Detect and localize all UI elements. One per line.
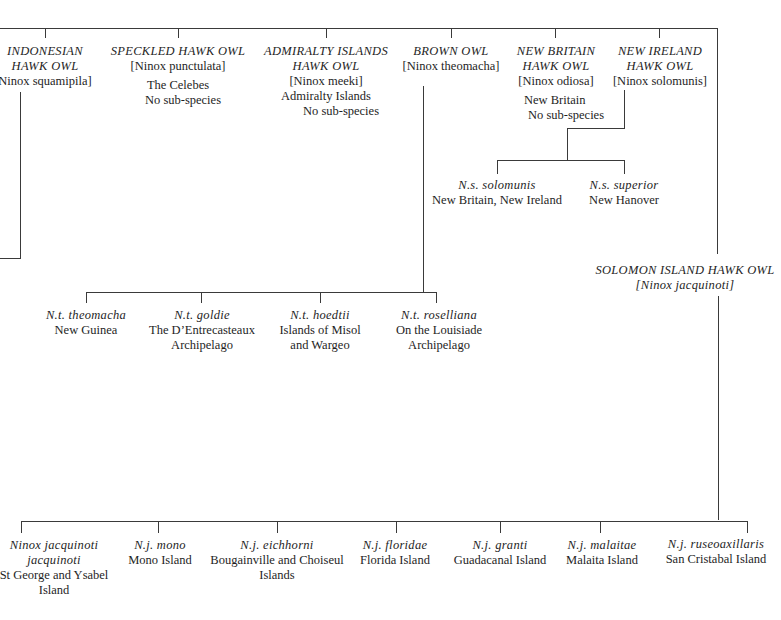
top-bracket-line [0, 28, 718, 29]
latin-name: [Ninox solomunis] [610, 74, 710, 89]
common-name: HAWK OWL [610, 59, 710, 74]
subspecies-name: N.j. granti [450, 538, 550, 553]
jacquinoti-bracket-line [21, 521, 748, 522]
range: Mono Island [120, 553, 200, 568]
common-name: HAWK OWL [256, 59, 396, 74]
tick-nt-roselliana [436, 292, 437, 303]
indonesian-stem-line [20, 92, 21, 258]
subspecies-name: N.j. floridae [350, 538, 440, 553]
indonesian-foot-line [0, 258, 21, 259]
range: New Guinea [36, 323, 136, 338]
tick-brown [451, 28, 452, 38]
range: St George and Ysabel [0, 568, 114, 583]
subspecies-nj-mono: N.j. mono Mono Island [120, 538, 200, 568]
new-ireland-joint-down [567, 128, 568, 160]
range: San Cristabal Island [656, 552, 776, 567]
subspecies-ns-solomunis: N.s. solomunis New Britain, New Ireland [432, 178, 562, 208]
jacquinoti-stem-line [718, 296, 719, 520]
latin-name: [Ninox jacquinoti] [590, 278, 780, 293]
common-name: BROWN OWL [396, 44, 506, 59]
note: No sub-species [506, 108, 606, 123]
tick-ns-superior [624, 160, 625, 174]
species-solomon-island-hawk-owl: SOLOMON ISLAND HAWK OWL [Ninox jacquinot… [590, 263, 780, 293]
subspecies-nt-goldie: N.t. goldie The D’Entrecasteaux Archipel… [140, 308, 264, 353]
tick-new-britain [555, 28, 556, 38]
subspecies-name: Ninox jacquinoti [0, 538, 114, 553]
subspecies-nj-jacquinoti: Ninox jacquinoti jacquinoti St George an… [0, 538, 114, 598]
common-name: NEW IRELAND [610, 44, 710, 59]
tick-nt-theomacha [86, 292, 87, 303]
subspecies-name: jacquinoti [0, 553, 114, 568]
tick-ns-solomunis [497, 160, 498, 174]
species-indonesian-hawk-owl: INDONESIAN HAWK OWL Ninox squamipila] [0, 44, 98, 89]
species-new-britain-hawk-owl: NEW BRITAIN HAWK OWL [Ninox odiosa] New … [506, 44, 606, 123]
subspecies-name: N.t. hoedtii [270, 308, 370, 323]
new-ireland-stem-line [624, 90, 625, 128]
species-speckled-hawk-owl: SPECKLED HAWK OWL [Ninox punctulata] The… [108, 44, 248, 108]
subspecies-nt-hoedtii: N.t. hoedtii Islands of Misol and Wargeo [270, 308, 370, 353]
latin-name: [Ninox theomacha] [396, 59, 506, 74]
range: Guadacanal Island [450, 553, 550, 568]
common-name: HAWK OWL [0, 59, 98, 74]
subspecies-ns-superior: N.s. superior New Hanover [574, 178, 674, 208]
subspecies-name: N.s. solomunis [432, 178, 562, 193]
common-name: SPECKLED HAWK OWL [108, 44, 248, 59]
tick-indonesian [45, 28, 46, 38]
range: Florida Island [350, 553, 440, 568]
tick-nt-goldie [201, 292, 202, 303]
range: On the Louisiade [384, 323, 494, 338]
tick-new-ireland [659, 28, 660, 38]
subspecies-name: N.t. theomacha [36, 308, 136, 323]
range: and Wargeo [270, 338, 370, 353]
brown-stem-line [423, 86, 424, 292]
range: Bougainville and Choiseul [210, 553, 344, 568]
new-ireland-joint-line [567, 128, 625, 129]
latin-name: [Ninox odiosa] [506, 74, 606, 89]
subspecies-nt-theomacha: N.t. theomacha New Guinea [36, 308, 136, 338]
subspecies-name: N.j. mono [120, 538, 200, 553]
range: The Celebes [108, 78, 248, 93]
latin-name: [Ninox punctulata] [108, 59, 248, 74]
range: New Britain [506, 93, 606, 108]
subspecies-nj-floridae: N.j. floridae Florida Island [350, 538, 440, 568]
range: New Hanover [574, 193, 674, 208]
species-admiralty-islands-hawk-owl: ADMIRALTY ISLANDS HAWK OWL [Ninox meeki]… [256, 44, 396, 119]
range: Malaita Island [558, 553, 646, 568]
tick-nj-ruseoaxillaris [747, 521, 748, 533]
tick-nj-jacquinoti [21, 521, 22, 533]
tick-admiralty [326, 28, 327, 38]
theomacha-bracket-line [86, 292, 436, 293]
common-name: INDONESIAN [0, 44, 98, 59]
range: Archipelago [384, 338, 494, 353]
latin-name: Ninox squamipila] [0, 74, 98, 89]
range: Admiralty Islands [256, 89, 396, 104]
subspecies-name: N.s. superior [574, 178, 674, 193]
common-name: SOLOMON ISLAND HAWK OWL [590, 263, 780, 278]
range: Islands of Misol [270, 323, 370, 338]
subspecies-nj-eichhorni: N.j. eichhorni Bougainville and Choiseul… [210, 538, 344, 583]
solomon-stem-line [717, 28, 718, 254]
range: New Britain, New Ireland [432, 193, 562, 208]
tick-nj-mono [158, 521, 159, 533]
subspecies-nj-granti: N.j. granti Guadacanal Island [450, 538, 550, 568]
tick-nt-hoedtii [320, 292, 321, 303]
tick-nj-floridae [396, 521, 397, 533]
note: No sub-species [108, 93, 248, 108]
range: Archipelago [140, 338, 264, 353]
subspecies-name: N.t. roselliana [384, 308, 494, 323]
tick-nj-eichhorni [277, 521, 278, 533]
solomunis-bracket-line [497, 160, 625, 161]
species-brown-owl: BROWN OWL [Ninox theomacha] [396, 44, 506, 74]
tick-nj-granti [500, 521, 501, 533]
note: No sub-species [256, 104, 396, 119]
range: Island [0, 583, 114, 598]
common-name: HAWK OWL [506, 59, 606, 74]
subspecies-name: N.j. ruseoaxillaris [656, 537, 776, 552]
common-name: NEW BRITAIN [506, 44, 606, 59]
species-new-ireland-hawk-owl: NEW IRELAND HAWK OWL [Ninox solomunis] [610, 44, 710, 89]
subspecies-nt-roselliana: N.t. roselliana On the Louisiade Archipe… [384, 308, 494, 353]
subspecies-name: N.j. eichhorni [210, 538, 344, 553]
tick-nj-malaitae [600, 521, 601, 533]
range: Islands [210, 568, 344, 583]
tick-speckled [178, 28, 179, 38]
